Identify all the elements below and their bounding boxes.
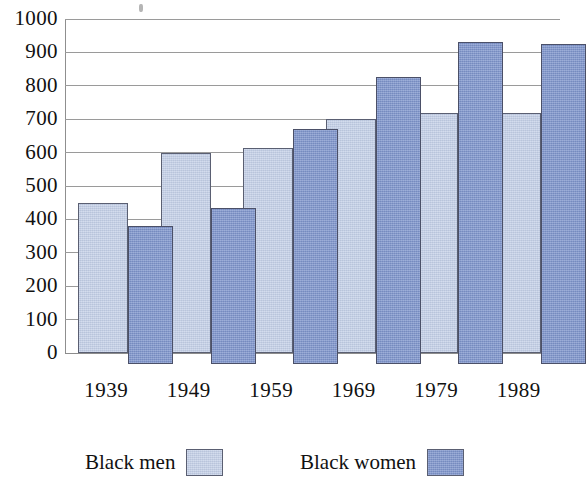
bar-women-1989 [541,44,586,364]
y-axis-tick-label: 100 [0,309,58,330]
y-axis-tick-label: 600 [0,142,58,163]
x-axis-tick-labels: 193919491959196919791989 [65,378,560,408]
plot-area [65,19,560,353]
x-axis-tick-label-1939: 1939 [65,378,148,402]
x-axis-tick-label-1979: 1979 [395,378,478,402]
y-axis-tick-label: 400 [0,208,58,229]
legend-entry-black-men: Black men [85,446,223,478]
y-axis-tick-label: 300 [0,242,58,263]
y-axis-tick-label: 900 [0,41,58,62]
bar-men-1939 [78,203,128,353]
scan-artifact-speck [139,4,143,12]
gridline [65,19,560,20]
y-axis-tick-label: 0 [0,342,58,363]
bar-women-1969 [376,77,421,364]
y-axis-tick-label: 700 [0,108,58,129]
bar-women-1949 [211,208,256,364]
x-axis-tick-label-1949: 1949 [148,378,231,402]
legend-label: Black men [85,450,175,474]
y-axis-tick-label: 500 [0,175,58,196]
y-axis-tick-label: 1000 [0,8,58,29]
y-axis-tick-label: 800 [0,75,58,96]
bar-women-1979 [458,42,503,364]
x-axis-tick-label-1969: 1969 [313,378,396,402]
legend-entry-black-women: Black women [300,446,464,478]
bar-women-1959 [293,129,338,364]
x-axis-tick-label-1959: 1959 [230,378,313,402]
legend-swatch [186,449,223,476]
bar-women-1939 [128,226,173,364]
legend-swatch [427,449,464,476]
y-axis-tick-labels: 01002003004005006007008009001000 [0,19,58,353]
chart-legend: Black menBlack women [0,446,566,480]
y-axis-tick-label: 200 [0,275,58,296]
legend-label: Black women [300,450,416,474]
x-axis-tick-label-1989: 1989 [478,378,561,402]
